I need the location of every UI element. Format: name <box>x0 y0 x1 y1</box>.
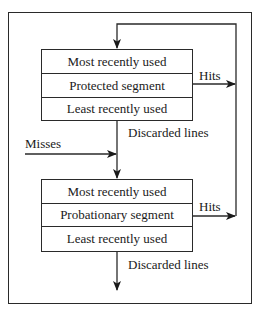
probationary-mru-row: Most recently used <box>42 180 192 204</box>
probationary-segment-box: Most recently used Probationary segment … <box>41 179 193 252</box>
protected-lru-row: Least recently used <box>42 98 192 120</box>
protected-segment-box: Most recently used Protected segment Lea… <box>41 49 193 121</box>
discarded-lines-label-bottom: Discarded lines <box>128 257 209 273</box>
probationary-lru-row: Least recently used <box>42 227 192 251</box>
probationary-segment-row: Probationary segment <box>42 204 192 227</box>
hits-label-top: Hits <box>199 68 221 84</box>
hits-label-bottom: Hits <box>199 199 221 215</box>
misses-label: Misses <box>25 136 61 152</box>
protected-mru-row: Most recently used <box>42 50 192 74</box>
protected-segment-row: Protected segment <box>42 74 192 98</box>
discarded-lines-label-top: Discarded lines <box>128 125 209 141</box>
